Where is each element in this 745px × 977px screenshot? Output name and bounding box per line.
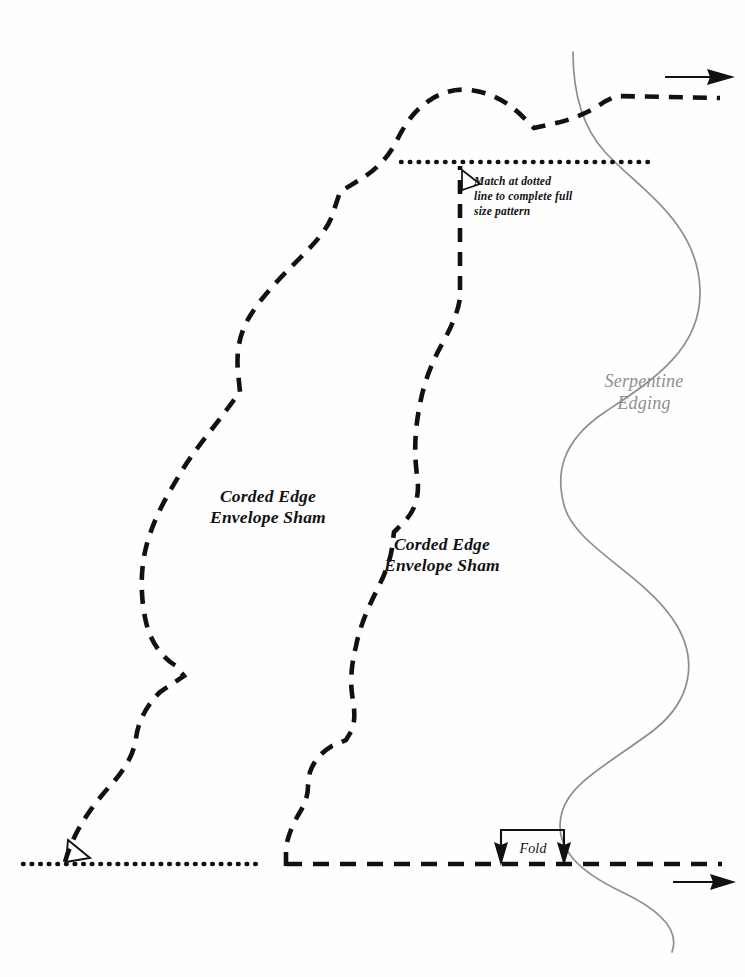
grain-arrow-top-icon xyxy=(665,69,735,85)
pattern-drawing xyxy=(0,0,745,977)
cutting-line-left xyxy=(65,90,720,862)
pattern-sheet: Corded Edge Envelope Sham Corded Edge En… xyxy=(0,0,745,977)
grain-arrow-bottom-icon xyxy=(673,874,736,890)
label-corded-edge-envelope-sham-left: Corded Edge Envelope Sham xyxy=(178,486,358,529)
label-match-at-dotted-line-note: Match at dotted line to complete full si… xyxy=(474,174,602,220)
label-fold: Fold xyxy=(505,840,561,857)
label-corded-edge-envelope-sham-right: Corded Edge Envelope Sham xyxy=(352,534,532,577)
label-serpentine-edging: Serpentine Edging xyxy=(580,371,708,415)
